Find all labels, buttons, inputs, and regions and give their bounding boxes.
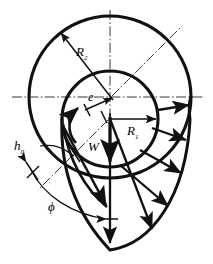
label-e: e: [88, 90, 94, 104]
journal-bearing-figure: R2 R1 e W h0 ϕ: [0, 0, 213, 264]
label-w: W: [88, 139, 100, 154]
diagonal-centerline: [112, 26, 182, 96]
label-h0: h0: [14, 138, 25, 156]
label-r1: R1: [126, 123, 138, 141]
label-r2: R2: [75, 44, 88, 62]
diagram-canvas: R2 R1 e W h0 ϕ: [0, 0, 213, 264]
eccentricity-tick-a: [84, 104, 90, 116]
eccentricity-tick-b: [101, 111, 107, 123]
pressure-arrow-6: [158, 105, 189, 110]
r2-dimension-arrow: [61, 33, 113, 100]
pressure-arrow-group: [110, 105, 189, 243]
phi-cross-tick: [27, 166, 39, 178]
label-phi: ϕ: [48, 199, 55, 214]
